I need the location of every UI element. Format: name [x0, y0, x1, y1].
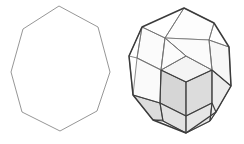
octagon-outline: [11, 6, 110, 131]
geometry-figure-svg: [0, 0, 244, 144]
octagon-shape: [11, 6, 110, 131]
zonohedron-3d: [129, 8, 231, 133]
zonohedron-edge-hidden-1: [129, 56, 137, 58]
figure-canvas: [0, 0, 244, 144]
